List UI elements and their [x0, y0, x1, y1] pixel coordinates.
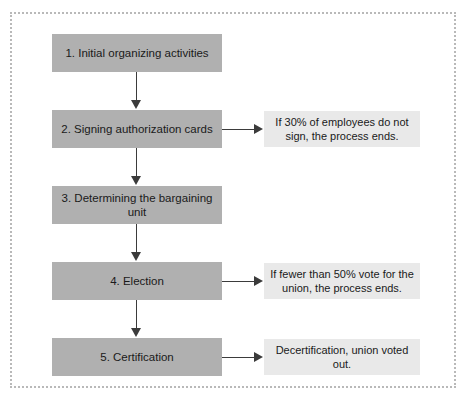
connector-step2-to-note1-line — [222, 129, 256, 130]
note-box-1: If 30% of employees do not sign, the pro… — [264, 111, 420, 147]
step-box-4: 4. Election — [52, 262, 222, 300]
connector-step1-to-step2-line — [136, 72, 137, 101]
connector-step2-to-step3-line — [136, 148, 137, 177]
connector-step4-to-note2-arrowhead — [254, 276, 263, 286]
connector-step4-to-step5-line — [136, 300, 137, 329]
step-box-2: 2. Signing authorization cards — [52, 110, 222, 148]
connector-step4-to-note2-line — [222, 281, 256, 282]
note-box-3: Decertification, union voted out. — [264, 339, 420, 375]
step-box-3: 3. Determining the bargaining unit — [52, 186, 222, 224]
connector-step3-to-step4-arrowhead — [131, 252, 141, 261]
connector-step2-to-step3-arrowhead — [131, 176, 141, 185]
step-box-1: 1. Initial organizing activities — [52, 34, 222, 72]
note-box-2: If fewer than 50% vote for the union, th… — [264, 263, 420, 299]
connector-step1-to-step2-arrowhead — [131, 100, 141, 109]
step-box-5: 5. Certification — [52, 338, 222, 376]
connector-step5-to-note3-line — [222, 357, 256, 358]
connector-step3-to-step4-line — [136, 224, 137, 253]
connector-step5-to-note3-arrowhead — [254, 352, 263, 362]
connector-step4-to-step5-arrowhead — [131, 328, 141, 337]
connector-step2-to-note1-arrowhead — [254, 124, 263, 134]
diagram-canvas: 1. Initial organizing activities 2. Sign… — [0, 0, 466, 396]
